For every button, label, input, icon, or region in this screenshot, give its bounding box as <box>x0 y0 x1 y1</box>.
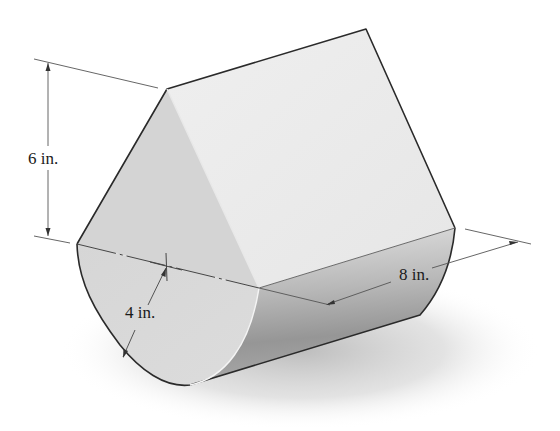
height-dimension-label: 6 in. <box>28 150 58 167</box>
diagram-canvas <box>0 0 560 431</box>
radius-dimension-label: 4 in. <box>125 304 155 321</box>
length-dimension-label: 8 in. <box>399 266 429 283</box>
